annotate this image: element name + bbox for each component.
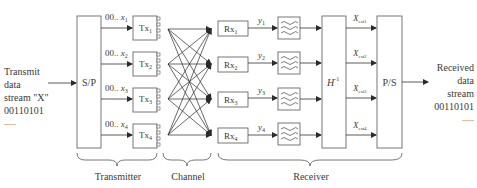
antenna-array-icon [157,89,160,110]
rx-row-2: Rx2 y2 [218,50,277,72]
svg-text:data: data [4,79,21,90]
svg-text:Xest4: Xest4 [352,120,367,131]
transmitter-label: Transmitter [95,171,142,182]
svg-text:Xest1: Xest1 [352,13,367,24]
svg-text:Xest3: Xest3 [352,83,367,94]
svg-text:00.. x4: 00.. x4 [105,119,128,130]
rx-row-1: Rx1 y1 [218,15,277,36]
svg-text:stream "X": stream "X" [4,92,49,103]
channel-paths [168,29,211,135]
estimate-1: Xest1 [346,13,376,28]
svg-text:00110101: 00110101 [434,101,474,112]
svg-text:00.. x2: 00.. x2 [105,48,128,59]
sp-label: S/P [82,77,96,88]
svg-text:data: data [457,75,474,86]
estimate-3: Xest3 [346,83,376,98]
tx-row-2: 00.. x2 Tx2 [101,48,160,76]
svg-text:00110101: 00110101 [4,105,44,116]
svg-text:Transmit: Transmit [4,66,40,77]
tx-row-1: 00.. x1 Tx1 [101,12,160,40]
svg-text:Xest2: Xest2 [352,48,367,59]
svg-text:00.. x3: 00.. x3 [105,83,128,94]
svg-text:Received: Received [437,62,474,73]
receiver-label: Receiver [293,171,329,182]
svg-text:y1: y1 [257,15,265,26]
channel-brace [163,153,211,166]
antenna-array-icon [157,17,160,38]
transmitter-brace [77,153,157,166]
svg-text:stream: stream [447,88,474,99]
filter-icon [278,17,321,39]
receiver-brace [218,153,402,166]
tx-row-4: 00.. x4 Tx4 [101,119,160,148]
svg-text:......: ...... [462,114,474,123]
svg-text:y4: y4 [257,122,265,133]
estimate-2: Xest2 [346,48,376,63]
ps-label: P/S [383,77,397,88]
rx-row-3: Rx3 y3 [218,85,277,107]
input-stream-label: Transmit data stream "X" 00110101 ...... [4,66,49,127]
filter-icon [278,123,321,145]
channel-label: Channel [171,171,205,182]
output-stream-label: Received data stream 00110101 ...... [434,62,474,123]
filter-icon [278,52,321,74]
antenna-array-icon [157,53,160,74]
svg-text:y3: y3 [257,85,265,96]
filter-icon [278,88,321,110]
tx-row-3: 00.. x3 Tx3 [101,83,160,112]
mimo-system-diagram: Transmit data stream "X" 00110101 ......… [0,0,477,188]
svg-text:00.. x1: 00.. x1 [105,12,128,23]
estimate-4: Xest4 [346,120,376,135]
svg-text:......: ...... [4,118,16,127]
svg-text:y2: y2 [257,50,265,61]
antenna-array-icon [157,125,160,146]
rx-row-4: Rx4 y4 [218,122,277,143]
